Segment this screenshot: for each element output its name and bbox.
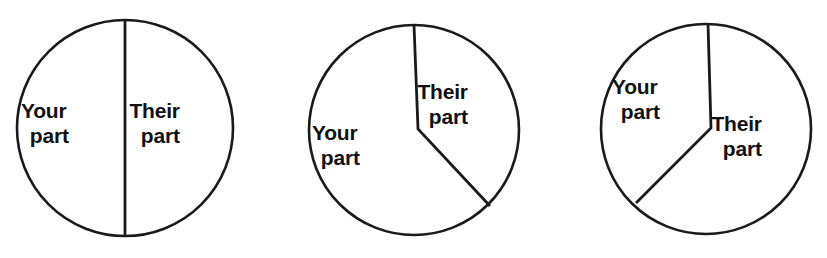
pie-1-your-label-line2: part xyxy=(30,124,69,147)
pie-1-their-label-line1: Their xyxy=(129,99,179,122)
pie-2-their-label-line1: Their xyxy=(417,80,467,103)
pie-3-their-label-line2: part xyxy=(723,137,762,160)
pie-2-your-label-line1: Your xyxy=(312,121,358,144)
pie-1-their-label-line2: part xyxy=(141,124,180,147)
pie-2-your-label-line2: part xyxy=(321,146,360,169)
pie-chart-2-your-part-larger: Your part Their part xyxy=(309,25,519,235)
pie-3-their-label-line1: Their xyxy=(711,112,761,135)
pie-chart-3-their-part-larger: Your part Their part xyxy=(601,24,813,234)
pie-1-your-label-line1: Your xyxy=(21,99,67,122)
pie-3-your-label-line1: Your xyxy=(612,75,658,98)
pie-chart-group: Your part Their part Your part Their par… xyxy=(0,0,827,258)
pie-2-their-label-line2: part xyxy=(429,105,468,128)
pie-chart-1-equal-split: Your part Their part xyxy=(17,20,233,236)
pie-diagram-figure: Your part Their part Your part Their par… xyxy=(0,0,827,258)
pie-3-your-label-line2: part xyxy=(621,100,660,123)
